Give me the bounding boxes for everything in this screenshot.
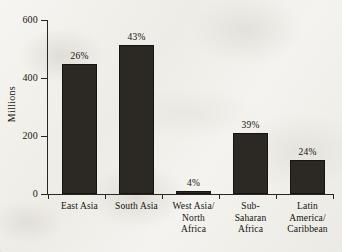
x-category-label-line2: Saharan	[221, 213, 280, 225]
y-tick-mark-600	[41, 20, 47, 21]
x-category-label-latin-america-caribbean: Latin America/ Caribbean	[278, 201, 337, 236]
x-category-label-south-asia: South Asia	[107, 201, 166, 213]
y-tick-label-400: 400	[0, 73, 38, 83]
x-axis-line	[47, 194, 334, 195]
x-category-label-west-asia-north-africa: West Asia/ North Africa	[164, 201, 223, 236]
x-tick-mark-4	[276, 194, 277, 199]
x-category-label-east-asia: East Asia	[50, 201, 109, 213]
chart-figure: Millions 600 400 200 0 26% East Asia 43%…	[0, 0, 342, 252]
bar-latin-america-caribbean[interactable]	[290, 160, 325, 194]
bar-value-label-latin-america-caribbean: 24%	[284, 147, 331, 157]
x-category-label-line3: Caribbean	[278, 224, 337, 236]
x-category-label-line1: Sub-	[221, 201, 280, 213]
bar-value-label-sub-saharan-africa: 39%	[227, 120, 274, 130]
x-category-label-line2: America/	[278, 213, 337, 225]
y-tick-label-200: 200	[0, 131, 38, 141]
bar-value-label-west-asia-north-africa: 4%	[170, 178, 217, 188]
x-category-label-line1: West Asia/	[164, 201, 223, 213]
y-axis-line	[47, 20, 48, 195]
bar-south-asia[interactable]	[119, 45, 154, 194]
x-category-label-line3: Africa	[164, 224, 223, 236]
bar-value-label-south-asia: 43%	[113, 32, 160, 42]
bar-east-asia[interactable]	[62, 64, 97, 194]
y-axis-title: Millions	[4, 86, 20, 122]
y-tick-mark-200	[41, 136, 47, 137]
x-category-label-line3: Africa	[221, 224, 280, 236]
x-tick-mark-0	[48, 194, 49, 199]
y-tick-mark-0	[41, 194, 47, 195]
y-tick-label-0: 0	[0, 189, 38, 199]
x-tick-mark-1	[105, 194, 106, 199]
x-tick-mark-3	[219, 194, 220, 199]
bar-chart-plot-area: Millions 600 400 200 0 26% East Asia 43%…	[0, 0, 342, 252]
x-category-label-line1: Latin	[278, 201, 337, 213]
x-tick-mark-5	[333, 194, 334, 199]
y-tick-mark-400	[41, 78, 47, 79]
bar-sub-saharan-africa[interactable]	[233, 133, 268, 194]
bar-west-asia-north-africa[interactable]	[176, 191, 211, 194]
x-category-label-sub-saharan-africa: Sub- Saharan Africa	[221, 201, 280, 236]
x-category-label-line1: East Asia	[50, 201, 109, 213]
y-tick-label-600: 600	[0, 15, 38, 25]
x-tick-mark-2	[162, 194, 163, 199]
bar-value-label-east-asia: 26%	[56, 51, 103, 61]
x-category-label-line1: South Asia	[107, 201, 166, 213]
x-category-label-line2: North	[164, 213, 223, 225]
